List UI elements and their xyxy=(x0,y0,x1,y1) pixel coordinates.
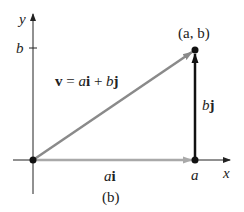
x-tick-label: a xyxy=(191,167,199,183)
x-axis-label: x xyxy=(222,165,230,181)
vector-v-label: v = ai + bj xyxy=(55,73,119,89)
vector-bj-label: bj xyxy=(202,97,215,113)
y-axis-label: y xyxy=(17,11,26,27)
vector-v xyxy=(33,52,192,160)
point-ab-label: (a, b) xyxy=(178,25,210,42)
origin-point xyxy=(30,157,37,164)
point-ab xyxy=(192,47,199,54)
figure-caption: (b) xyxy=(102,189,120,206)
vector-diagram: y b x a (a, b) v = ai + bj ai bj (b) xyxy=(0,0,244,212)
point-a xyxy=(192,157,199,164)
vector-ai-label: ai xyxy=(104,168,116,184)
y-tick-label: b xyxy=(16,40,24,56)
